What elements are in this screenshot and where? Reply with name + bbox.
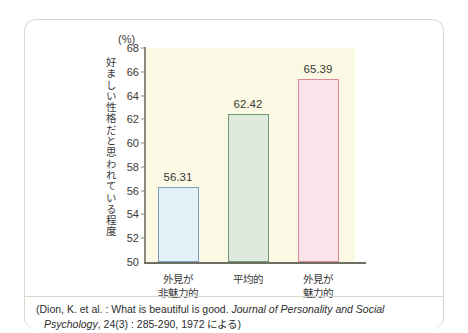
caption-line2-italic: Psychology xyxy=(36,318,98,330)
category-label-line: 非魅力的 xyxy=(158,286,198,300)
category-label-line: 平均的 xyxy=(233,272,263,286)
bar-chart: (%) 好ましい性格だと思われている程度 6866646260585654525… xyxy=(0,0,468,296)
bar-value-label: 65.39 xyxy=(304,63,333,75)
x-axis-category-label: 平均的 xyxy=(233,272,263,286)
caption-line2-suffix: , 24(3) : 285-290, 1972 による) xyxy=(98,318,241,330)
caption-line1-italic: Journal of Personality and Social xyxy=(232,303,385,315)
bar-value-label: 62.42 xyxy=(234,98,263,110)
caption-divider xyxy=(25,296,443,297)
figure-panel: (%) 好ましい性格だと思われている程度 6866646260585654525… xyxy=(0,0,468,333)
bar xyxy=(228,114,269,262)
category-label-line: 外見が xyxy=(303,272,333,286)
bar xyxy=(298,79,339,262)
bar-value-label: 56.31 xyxy=(164,171,193,183)
bars-layer: 56.3162.4265.39 xyxy=(0,0,468,296)
caption-line1-prefix: (Dion, K. et al. : What is beautiful is … xyxy=(36,303,232,315)
source-caption: (Dion, K. et al. : What is beautiful is … xyxy=(36,302,440,332)
bar xyxy=(158,187,199,262)
category-label-line: 魅力的 xyxy=(303,286,333,300)
category-label-line: 外見が xyxy=(158,272,198,286)
